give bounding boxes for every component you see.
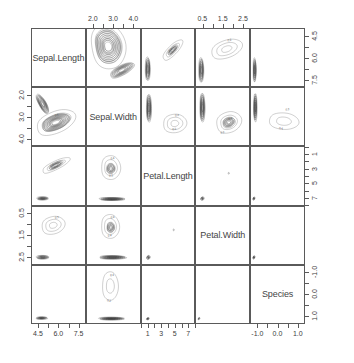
- axis-tick-label: -1.0: [251, 330, 263, 337]
- axis-tick: [305, 183, 309, 184]
- axis-tick-label: 2.5: [238, 15, 248, 22]
- density-contours: 0.60.4: [87, 207, 140, 264]
- svg-text:0.4: 0.4: [108, 233, 113, 238]
- axis-tick: [305, 305, 309, 306]
- axis-tick: [203, 24, 204, 28]
- axis-tick: [69, 324, 70, 328]
- svg-text:0.2: 0.2: [227, 38, 232, 43]
- axis-tick: [305, 169, 309, 170]
- scatter-panel-r2c4: 0.40.2: [195, 87, 250, 146]
- axis-tick-label: 7.5: [311, 75, 318, 85]
- axis-tick-label: 0.5: [198, 15, 208, 22]
- axis-tick: [27, 235, 31, 236]
- density-contours: 0.40.2: [87, 266, 140, 323]
- axis-tick-label: 2.0: [88, 15, 98, 22]
- density-contours: 0.4: [32, 147, 85, 204]
- axis-tick: [278, 324, 279, 328]
- axis-tick-label: 2.5: [18, 252, 25, 262]
- axis-tick: [305, 36, 309, 37]
- density-contours: 0.40.2: [142, 88, 195, 145]
- axis-tick-label: 0.0: [311, 290, 318, 300]
- scatter-panel-r2c1: 0.6: [31, 87, 86, 146]
- axis-tick: [305, 69, 309, 70]
- axis-tick: [58, 324, 59, 328]
- axis-tick: [188, 324, 189, 328]
- scatter-panel-r5c1: [31, 265, 86, 324]
- axis-tick: [305, 154, 309, 155]
- axis-tick: [305, 205, 309, 206]
- axis-tick-label: 1.5: [218, 15, 228, 22]
- axis-tick: [175, 324, 176, 328]
- axis-tick: [38, 324, 39, 328]
- scatter-panel-r2c3: 0.40.2: [141, 87, 196, 146]
- density-contours: [251, 207, 304, 264]
- diagonal-label: Sepal.Width: [89, 112, 136, 122]
- axis-tick-label: 1.5: [18, 230, 25, 240]
- axis-tick: [305, 58, 309, 59]
- diagonal-panel-petal-width: Petal.Width: [195, 206, 250, 265]
- axis-tick: [27, 106, 31, 107]
- axis-tick: [141, 324, 142, 328]
- axis-tick: [195, 324, 196, 328]
- axis-tick: [298, 324, 299, 328]
- axis-tick: [148, 324, 149, 328]
- scatter-panel-r1c2: [86, 28, 141, 87]
- axis-tick: [27, 257, 31, 258]
- svg-text:0.2: 0.2: [221, 130, 226, 135]
- diagonal-panel-species: Species: [250, 265, 305, 324]
- svg-text:0.2: 0.2: [172, 127, 177, 132]
- axis-tick: [123, 24, 124, 28]
- scatter-panel-r5c3: [141, 265, 196, 324]
- axis-tick: [93, 24, 94, 28]
- density-contours: 0.40.2: [196, 88, 249, 145]
- axis-tick-label: 5: [311, 181, 318, 185]
- axis-tick-label: 3: [311, 167, 318, 171]
- svg-text:0.6: 0.6: [110, 214, 115, 219]
- axis-tick-label: 1.0: [311, 311, 318, 321]
- axis-tick: [213, 24, 214, 28]
- svg-text:0.2: 0.2: [109, 173, 114, 178]
- svg-text:0.4: 0.4: [279, 126, 284, 131]
- axis-tick-label: 7: [186, 330, 190, 337]
- density-contours: [32, 266, 85, 323]
- axis-tick: [161, 324, 162, 328]
- axis-tick-label: 0.5: [18, 208, 25, 218]
- axis-tick: [27, 117, 31, 118]
- axis-tick: [113, 24, 114, 28]
- svg-text:0.2: 0.2: [285, 107, 290, 112]
- scatter-panel-r1c5: [250, 28, 305, 87]
- density-contours: [251, 147, 304, 204]
- axis-tick-label: 1: [311, 152, 318, 156]
- scatter-panel-r3c5: [250, 146, 305, 205]
- axis-tick-label: 5: [173, 330, 177, 337]
- density-contours: [196, 266, 249, 323]
- axis-tick-label: 4.0: [128, 15, 138, 22]
- axis-tick-label: 1.0: [293, 330, 303, 337]
- svg-text:0.2: 0.2: [54, 214, 59, 219]
- density-contours: [251, 29, 304, 86]
- scatter-panel-r3c1: 0.4: [31, 146, 86, 205]
- axis-tick: [305, 316, 309, 317]
- axis-tick-label: 3.0: [108, 15, 118, 22]
- axis-tick: [154, 324, 155, 328]
- scatter-panel-r4c5: [250, 206, 305, 265]
- axis-tick-label: 4.5: [311, 31, 318, 41]
- axis-tick: [27, 246, 31, 247]
- diagonal-panel-petal-length: Petal.Length: [141, 146, 196, 205]
- axis-tick-label: 7: [311, 196, 318, 200]
- scatter-panel-r4c2: 0.60.4: [86, 206, 141, 265]
- axis-tick-label: 1: [146, 330, 150, 337]
- density-contours: 0.4: [142, 29, 195, 86]
- scatter-panel-r5c4: [195, 265, 250, 324]
- axis-tick-label: 4.5: [33, 330, 43, 337]
- scatter-panel-r5c2: 0.40.2: [86, 265, 141, 324]
- axis-tick-label: 7.5: [74, 330, 84, 337]
- axis-tick: [305, 161, 309, 162]
- axis-tick: [168, 324, 169, 328]
- scatter-panel-r1c4: 0.2: [195, 28, 250, 87]
- scatter-panel-r3c2: 0.40.2: [86, 146, 141, 205]
- diagonal-panel-sepal-width: Sepal.Width: [86, 87, 141, 146]
- panel-grid: Sepal.Length0.40.20.6Sepal.Width0.40.20.…: [31, 28, 305, 324]
- scatterplot-matrix-figure: Sepal.Length0.40.20.6Sepal.Width0.40.20.…: [0, 0, 354, 363]
- axis-tick: [27, 139, 31, 140]
